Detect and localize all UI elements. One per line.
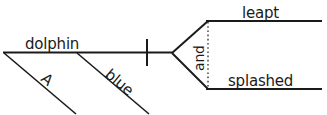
word-modifier-article: A	[37, 69, 57, 90]
word-verb-upper: leapt	[242, 4, 279, 22]
word-subject: dolphin	[25, 35, 79, 53]
sentence-diagram-canvas: dolphin A blue and leapt splashed	[0, 0, 327, 115]
word-conjunction: and	[191, 45, 207, 71]
word-modifier-adjective: blue	[101, 65, 137, 99]
sentence-diagram: dolphin A blue and leapt splashed	[0, 0, 327, 115]
word-verb-lower: splashed	[228, 72, 293, 90]
